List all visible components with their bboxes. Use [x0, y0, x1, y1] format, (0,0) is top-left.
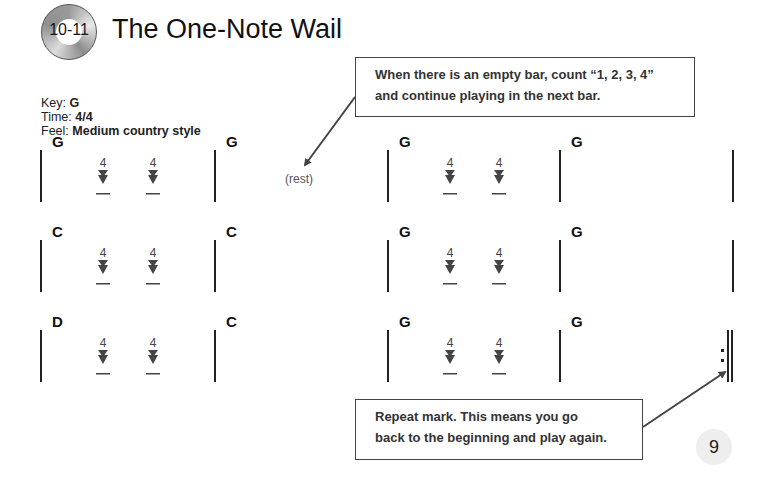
beat-count: 4: [443, 336, 457, 350]
feel-info: Feel: Medium country style: [41, 124, 201, 138]
chord-label: D: [52, 313, 63, 330]
chord-label: G: [399, 313, 411, 330]
callout-line: and continue playing in the next bar.: [375, 85, 694, 106]
bar-line-thin: [727, 330, 729, 382]
bar-line: [40, 240, 42, 292]
key-info: Key: G: [41, 96, 79, 110]
bar-line: [40, 150, 42, 202]
downstroke-icon: [96, 350, 110, 376]
bar-line: [732, 240, 734, 292]
callout-line: When there is an empty bar, count “1, 2,…: [375, 64, 694, 85]
downstroke-icon: [492, 260, 506, 286]
chord-label: G: [571, 313, 583, 330]
chord-label: G: [399, 223, 411, 240]
bar-line: [387, 150, 389, 202]
beat-count: 4: [96, 246, 110, 260]
arrow-to-repeat-icon: [643, 372, 725, 427]
bar-line: [559, 240, 561, 292]
bar-line: [559, 330, 561, 382]
beat-count: 4: [492, 156, 506, 170]
beat-count: 4: [96, 336, 110, 350]
chord-label: G: [399, 133, 411, 150]
chord-label: C: [52, 223, 63, 240]
bar-line: [214, 330, 216, 382]
beat-count: 4: [96, 156, 110, 170]
feel-value: Medium country style: [72, 124, 201, 138]
time-label: Time:: [41, 110, 75, 124]
beat-count: 4: [146, 336, 160, 350]
chord-label: G: [226, 133, 238, 150]
downstroke-icon: [96, 170, 110, 196]
callout-line: back to the beginning and play again.: [375, 427, 642, 448]
bar-line: [387, 330, 389, 382]
bar-line: [40, 330, 42, 382]
beat-count: 4: [146, 246, 160, 260]
time-value: 4/4: [75, 110, 92, 124]
callout-line: Repeat mark. This means you go: [375, 406, 642, 427]
downstroke-icon: [96, 260, 110, 286]
key-label: Key:: [41, 96, 70, 110]
callout-empty-bar: When there is an empty bar, count “1, 2,…: [355, 57, 695, 117]
downstroke-icon: [443, 170, 457, 196]
chord-label: C: [226, 313, 237, 330]
downstroke-icon: [146, 170, 160, 196]
beat-count: 4: [443, 156, 457, 170]
bar-line-thick: [731, 330, 733, 382]
page-number: 9: [696, 429, 732, 465]
chord-label: G: [52, 133, 64, 150]
downstroke-icon: [443, 350, 457, 376]
bar-line: [214, 240, 216, 292]
downstroke-icon: [443, 260, 457, 286]
callout-repeat: Repeat mark. This means you go back to t…: [355, 399, 643, 460]
beat-count: 4: [443, 246, 457, 260]
chord-label: G: [571, 133, 583, 150]
bar-line: [214, 150, 216, 202]
time-info: Time: 4/4: [41, 110, 93, 124]
arrow-to-rest-icon: [305, 97, 355, 165]
cd-track-icon: 10-11: [41, 4, 97, 60]
beat-count: 4: [492, 336, 506, 350]
rest-label: (rest): [285, 172, 313, 186]
downstroke-icon: [146, 350, 160, 376]
repeat-dot: [721, 349, 724, 352]
chord-label: G: [571, 223, 583, 240]
downstroke-icon: [146, 260, 160, 286]
key-value: G: [70, 96, 80, 110]
beat-count: 4: [146, 156, 160, 170]
downstroke-icon: [492, 350, 506, 376]
bar-line: [732, 150, 734, 202]
chord-label: C: [226, 223, 237, 240]
bar-line: [387, 240, 389, 292]
downstroke-icon: [492, 170, 506, 196]
repeat-dot: [721, 359, 724, 362]
bar-line: [559, 150, 561, 202]
track-number: 10-11: [42, 21, 96, 39]
song-title: The One-Note Wail: [112, 14, 342, 45]
beat-count: 4: [492, 246, 506, 260]
